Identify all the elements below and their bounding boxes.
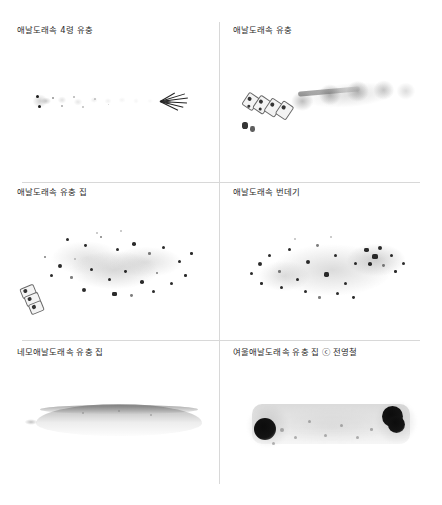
larva-abdomen <box>38 94 166 108</box>
larva-body-group <box>30 84 190 118</box>
specimen-image-larval-case-lens <box>12 362 215 490</box>
panel-pupa: 애날도래속 번데기 <box>228 186 431 338</box>
panel-larva: 애날도래속 유충 <box>228 24 431 176</box>
panel-caption: 애날도래속 유충 <box>228 24 431 36</box>
panel-larval-case-lens: 네모애날도래속 유충 집 <box>12 346 215 491</box>
specimen-image-larval-case-riffle <box>228 362 431 490</box>
panel-caption: 애날도래속 유충 집 <box>12 186 215 198</box>
divider-vertical <box>219 22 220 484</box>
figure-plate: 애날도래속 4령 유충 <box>0 0 442 505</box>
case-group <box>234 218 426 322</box>
panel-caption: 애날도래속 4령 유충 <box>12 24 215 36</box>
panel-caption: 네모애날도래속 유충 집 <box>12 346 215 358</box>
divider-horizontal-2 <box>22 340 420 341</box>
panel-caption: 여울애날도래속 유충 집 ⓒ 전영철 <box>228 346 431 358</box>
case-dark-end-right-lower <box>388 416 405 433</box>
larva-tail-filaments <box>160 90 190 112</box>
panel-larval-case: 애날도래속 유충 집 <box>12 186 215 338</box>
larva-speck <box>82 106 84 108</box>
specimen-image-larva <box>228 40 431 168</box>
case-anterior-tip <box>22 416 42 428</box>
case-dark-end-left <box>254 418 276 440</box>
larva-leg <box>242 122 248 129</box>
pupal-case-body <box>244 230 418 306</box>
specimen-image-4th-instar-larva <box>12 40 215 168</box>
larva-speck <box>61 105 63 107</box>
divider-horizontal-1 <box>22 182 420 183</box>
panel-caption: 애날도래속 번데기 <box>228 186 431 198</box>
case-group <box>20 218 210 324</box>
larva-leg <box>250 126 255 132</box>
case-group <box>22 396 210 452</box>
panel-larval-case-riffle: 여울애날도래속 유충 집 ⓒ 전영철 <box>228 346 431 491</box>
larva-speck <box>73 96 75 98</box>
specimen-image-pupa <box>228 202 431 330</box>
panel-larva-4th-instar: 애날도래속 4령 유충 <box>12 24 215 176</box>
larva-body-group <box>236 72 422 136</box>
larva-speck <box>94 98 96 100</box>
specimen-image-larval-case <box>12 202 215 330</box>
case-group <box>236 384 426 470</box>
